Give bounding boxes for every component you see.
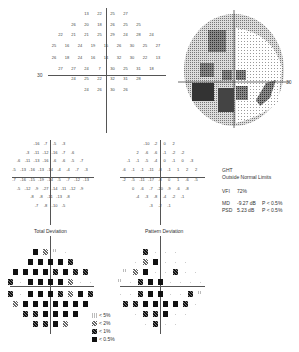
threshold-value: 24: [68, 77, 80, 81]
pattern-prob-symbol-black: [148, 279, 153, 285]
total-prob-symbol-black: [48, 279, 53, 285]
total-deviation-value: -13: [80, 178, 92, 182]
total-prob-symbol-black: [63, 269, 68, 275]
pattern-prob-symbol-black: [153, 259, 158, 265]
total-prob-symbol-dark: [43, 321, 48, 327]
total-prob-symbol-black: [83, 301, 88, 307]
threshold-value: 25: [94, 33, 106, 37]
grayscale-map: 30: [178, 8, 290, 128]
total-deviation-value: -9: [76, 187, 88, 191]
pattern-prob-symbol-none: [165, 272, 166, 273]
threshold-value: 24: [74, 44, 86, 48]
total-prob-symbol-black: [38, 279, 43, 285]
pattern-prob-symbol-none: [195, 304, 196, 305]
pattern-deviation-value: -1: [163, 204, 175, 208]
total-prob-symbol-med: [63, 321, 68, 327]
pattern-prob-symbol-dark: [188, 291, 193, 297]
total-prob-symbol-dark: [33, 311, 38, 317]
pattern-prob-symbol-dark: [138, 279, 143, 285]
threshold-value: 18: [146, 67, 158, 71]
pattern-prob-symbol-med: [133, 269, 138, 275]
pattern-prob-symbol-none: [165, 324, 166, 325]
pattern-prob-symbol-none: [185, 262, 186, 263]
legend-symbol-dark: [92, 329, 97, 334]
pattern-prob-symbol-none: [135, 314, 136, 315]
total-deviation-value: -3: [58, 142, 70, 146]
threshold-value: 25: [120, 23, 132, 27]
total-prob-symbol-dark: [88, 291, 93, 297]
tdp-vertical-axis: [50, 236, 51, 334]
total-prob-symbol-black: [58, 259, 63, 265]
threshold-value: 22: [55, 33, 67, 37]
pattern-prob-symbol-black: [153, 301, 158, 307]
total-prob-symbol-black: [48, 259, 53, 265]
threshold-map: 30 1322252726201826252522212125292428242…: [28, 0, 178, 135]
threshold-value: 20: [81, 23, 93, 27]
threshold-value: 15: [100, 44, 112, 48]
pattern-prob-symbol-dark: [153, 311, 158, 317]
pattern-prob-symbol-light: [123, 269, 127, 272]
pattern-prob-symbol-none: [180, 294, 181, 295]
legend-symbol-light: [92, 313, 97, 318]
threshold-value: 32: [113, 56, 125, 60]
threshold-value: 26: [107, 23, 119, 27]
total-prob-symbol-black: [28, 291, 33, 297]
pattern-prob-symbol-black: [163, 301, 168, 307]
total-prob-symbol-black: [73, 301, 78, 307]
threshold-value: 27: [68, 67, 80, 71]
threshold-value: 28: [133, 77, 145, 81]
md-label: MD: [222, 200, 230, 206]
threshold-value: 16: [61, 44, 73, 48]
total-prob-symbol-med: [68, 279, 73, 285]
threshold-value: 25: [48, 44, 60, 48]
total-deviation-value: -6: [67, 151, 79, 155]
threshold-value: 24: [146, 33, 158, 37]
total-prob-symbol-black: [53, 321, 58, 327]
pattern-prob-symbol-none: [170, 294, 171, 295]
total-prob-symbol-black: [33, 301, 38, 307]
total-deviation-value: -8: [62, 195, 74, 199]
grayscale-dark-patch: [218, 88, 234, 112]
total-prob-symbol-dark: [33, 321, 38, 327]
threshold-value: 27: [55, 67, 67, 71]
total-deviation-value: -5: [58, 204, 70, 208]
pattern-deviation-value: -1: [177, 195, 189, 199]
psd-label: PSD: [222, 207, 232, 213]
threshold-value: 21: [68, 33, 80, 37]
pattern-prob-symbol-none: [155, 272, 156, 273]
total-prob-symbol-black: [38, 291, 43, 297]
legend-item: < 0.5%: [92, 336, 115, 342]
psd-p-value: P < 0.5%: [262, 207, 282, 213]
pattern-prob-symbol-black: [158, 291, 163, 297]
pattern-prob-symbol-none: [135, 262, 136, 263]
total-prob-symbol-med: [13, 301, 18, 307]
threshold-value: 32: [107, 77, 119, 81]
threshold-value: 24: [81, 67, 93, 71]
pattern-deviation-value: -5: [190, 178, 202, 182]
threshold-value: 18: [61, 56, 73, 60]
pattern-deviation-numeric: -10-2022-6-6-1-2-2-1-1-5-40-10-3-6-1-1-1…: [105, 135, 205, 225]
threshold-value: 30: [107, 88, 119, 92]
total-prob-symbol-black: [63, 311, 68, 317]
threshold-value: 19: [87, 44, 99, 48]
threshold-value: 25: [81, 77, 93, 81]
pattern-prob-symbol-none: [175, 252, 176, 253]
pattern-prob-symbol-black: [173, 301, 178, 307]
pattern-prob-symbol-light: [118, 279, 122, 282]
pattern-prob-symbol-black: [163, 311, 168, 317]
threshold-horizontal-axis: [48, 75, 166, 76]
total-prob-symbol-dark: [83, 269, 88, 275]
threshold-value: 27: [120, 12, 132, 16]
threshold-value: 27: [152, 44, 164, 48]
total-prob-symbol-none: [20, 294, 21, 295]
total-prob-symbol-none: [20, 282, 21, 283]
threshold-value: 22: [94, 12, 106, 16]
threshold-value: 18: [94, 23, 106, 27]
total-prob-symbol-black: [43, 311, 48, 317]
total-prob-symbol-none: [80, 282, 81, 283]
threshold-value: 30: [107, 67, 119, 71]
pattern-prob-symbol-none: [145, 324, 146, 325]
threshold-value: 21: [81, 33, 93, 37]
grayscale-dark-patch: [200, 63, 214, 77]
pattern-prob-symbol-none: [185, 314, 186, 315]
